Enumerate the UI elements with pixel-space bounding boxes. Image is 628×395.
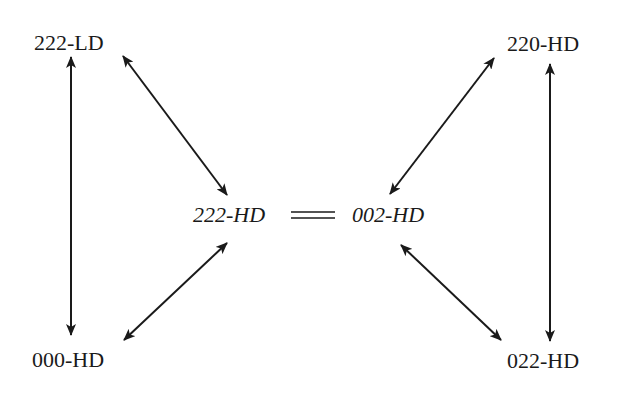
arrow-220HD-002HD	[390, 58, 494, 194]
node-222-LD: 222-LD	[34, 30, 104, 55]
arrow-022HD-002HD	[401, 245, 501, 340]
node-022-HD: 022-HD	[507, 348, 579, 373]
arrow-000HD-222HD	[124, 243, 227, 340]
equals-sign-icon	[291, 212, 335, 218]
node-220-HD: 220-HD	[507, 31, 579, 56]
relationship-diagram: 222-LD 220-HD 000-HD 022-HD 222-HD 002-H…	[0, 0, 628, 395]
node-002-HD: 002-HD	[352, 202, 424, 227]
node-000-HD: 000-HD	[32, 347, 104, 372]
node-222-HD: 222-HD	[193, 202, 265, 227]
arrow-222LD-222HD	[123, 56, 227, 195]
